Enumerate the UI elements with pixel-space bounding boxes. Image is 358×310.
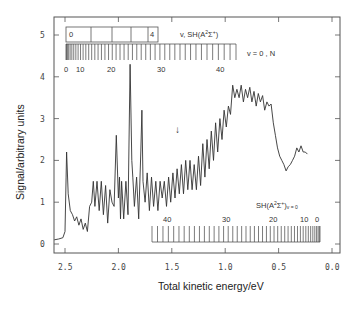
ladder-N-tick-20: 20 — [107, 65, 115, 74]
ladder-N-title: v = 0 , N — [247, 49, 275, 58]
ladder-low-title: SH(A2Σ+)v = 0 — [256, 200, 298, 210]
arrow-annotation: ↓ — [175, 124, 180, 135]
y-tick-label: 3 — [40, 115, 45, 124]
y-tick-label: 1 — [40, 198, 45, 207]
rotational-ladder-N-upper: 0 10 20 30 40 v = 0 , N — [64, 44, 275, 74]
y-axis-title: Signal/arbitrary units — [14, 104, 26, 200]
ladder-N-tick-30: 30 — [157, 65, 165, 74]
spectrum-trace — [54, 64, 307, 240]
plot-frame — [54, 17, 340, 253]
rotational-ladder-lower: 40 30 20 10 0 SH(A2Σ+)v = 0 — [152, 200, 320, 242]
y-axis: 012345 — [40, 31, 340, 249]
ladder-low-tick-0: 0 — [315, 215, 319, 224]
y-tick-label: 2 — [40, 156, 45, 165]
y-tick-label: 4 — [40, 73, 45, 82]
x-tick-label: 2.0 — [111, 263, 126, 272]
x-tick-label: 2.5 — [58, 263, 73, 272]
x-tick-label: 1.0 — [218, 263, 233, 272]
x-axis-title: Total kinetic energy/eV — [158, 280, 264, 292]
ladder-low-tick-40: 40 — [163, 215, 171, 224]
ladder-v-tick-0: 0 — [69, 30, 73, 39]
y-tick-label: 5 — [40, 31, 45, 40]
y-tick-label: 0 — [40, 240, 45, 249]
ladder-N-tick-10: 10 — [76, 65, 84, 74]
ladder-v-title: v, SH(A2Σ+) — [180, 29, 219, 39]
ladder-v-tick-4: 4 — [150, 30, 154, 39]
ladder-low-tick-30: 30 — [222, 215, 230, 224]
spectrum-figure: 012345 2.52.01.51.00.50.0 Total kinetic … — [0, 0, 358, 310]
x-tick-label: 0.0 — [325, 263, 340, 272]
ladder-low-tick-10: 10 — [300, 215, 308, 224]
ladder-N-tick-0: 0 — [64, 65, 68, 74]
vibrational-ladder-v: 0 4 v, SH(A2Σ+) — [66, 27, 219, 42]
x-tick-label: 0.5 — [272, 263, 287, 272]
ladder-N-tick-40: 40 — [216, 65, 224, 74]
x-tick-label: 1.5 — [165, 263, 180, 272]
ladder-low-tick-20: 20 — [269, 215, 277, 224]
